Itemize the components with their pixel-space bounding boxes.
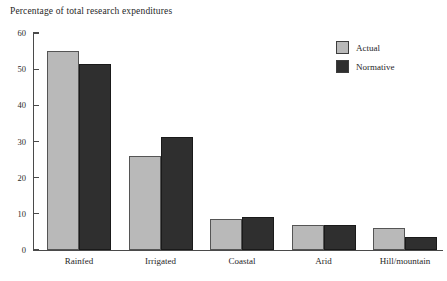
legend-label-normative: Normative <box>356 62 395 72</box>
x-axis-label: Coastal <box>229 256 256 266</box>
y-axis-tick-label: 30 <box>0 137 26 147</box>
legend: Actual Normative <box>336 41 395 79</box>
y-axis-tick-label: 0 <box>0 245 26 255</box>
y-axis-tick-label: 40 <box>0 100 26 110</box>
y-axis-tick-label: 20 <box>0 173 26 183</box>
bar-normative <box>79 64 111 250</box>
bar-normative <box>405 237 437 250</box>
bar-actual <box>373 228 405 250</box>
y-axis-tick <box>33 213 39 214</box>
bar-actual <box>292 225 324 250</box>
y-axis-tick <box>33 249 39 250</box>
x-axis-label: Hill/mountain <box>380 256 431 266</box>
y-axis-tick-label: 10 <box>0 209 26 219</box>
bar-actual <box>47 51 79 250</box>
bar-normative <box>161 137 193 250</box>
y-axis-tick <box>33 32 39 33</box>
x-axis-label: Irrigated <box>145 256 176 266</box>
legend-swatch-normative-icon <box>336 60 349 73</box>
bar-normative <box>324 225 356 250</box>
y-axis-tick <box>33 141 39 142</box>
x-axis-label: Arid <box>315 256 332 266</box>
bar-chart: Percentage of total research expenditure… <box>0 0 447 281</box>
y-axis-tick <box>33 177 39 178</box>
legend-item-actual: Actual <box>336 41 395 54</box>
y-axis-tick <box>33 69 39 70</box>
bar-actual <box>210 219 242 250</box>
y-axis-tick <box>33 105 39 106</box>
y-axis-tick-label: 60 <box>0 28 26 38</box>
y-axis-tick-label: 50 <box>0 64 26 74</box>
x-axis-label: Rainfed <box>65 256 94 266</box>
bar-normative <box>242 217 274 250</box>
legend-swatch-actual-icon <box>336 41 349 54</box>
legend-label-actual: Actual <box>356 43 380 53</box>
legend-item-normative: Normative <box>336 60 395 73</box>
bar-actual <box>129 156 161 250</box>
